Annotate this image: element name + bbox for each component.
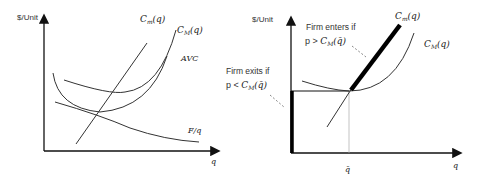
left-x-axis-label: q <box>211 157 216 166</box>
qbar-label: q̄ <box>345 165 350 174</box>
enter-annotation-line2: p > CM(q̄) <box>305 36 347 47</box>
exit-annotation-line1: Firm exits if <box>226 66 270 76</box>
right-cm-label: Cm(q) <box>395 11 421 22</box>
right-panel: $/Unit q q̄ Cm(q) CM(q) Firm enters if p… <box>226 11 460 174</box>
left-cM-label: CM(q) <box>177 25 203 36</box>
enter-annotation-leader <box>352 46 366 57</box>
right-x-axis-label: q <box>453 161 458 170</box>
left-marginal-cost-curve <box>76 43 147 144</box>
left-fq-label: F/q <box>187 126 201 135</box>
left-fixed-per-unit-curve <box>55 102 199 142</box>
left-panel: $/Unit q Cm(q) CM(q) AVC F/q <box>17 13 218 166</box>
left-cm-label: Cm(q) <box>140 14 166 25</box>
enter-annotation-line1: Firm enters if <box>306 22 356 32</box>
exit-annotation-line2: p < CM(q̄) <box>226 80 268 91</box>
left-avc-curve <box>53 56 167 112</box>
right-y-axis-label: $/Unit <box>252 15 274 24</box>
exit-annotation-leader <box>270 95 284 107</box>
left-average-cost-curve <box>64 30 176 93</box>
left-y-axis-label: $/Unit <box>17 13 39 22</box>
right-marginal-cost-lower <box>327 88 352 127</box>
cost-curves-diagram: $/Unit q Cm(q) CM(q) AVC F/q $/Unit q q̄ <box>0 0 481 184</box>
left-avc-label: AVC <box>180 54 198 63</box>
right-cM-label: CM(q) <box>424 39 450 50</box>
right-supply-curve-thick <box>351 25 400 90</box>
